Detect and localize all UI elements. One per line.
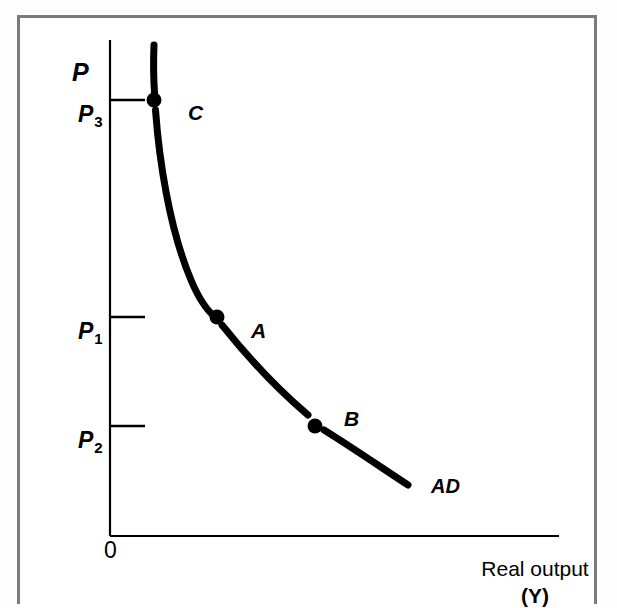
y-tick-label-p1-base: P (78, 318, 93, 344)
x-axis-title-line2: (Y) (460, 584, 610, 608)
y-tick-label-p2: P2 (78, 429, 102, 452)
ad-curve-segment-c-to-a (156, 110, 216, 317)
ad-curve-segment-top (154, 45, 155, 94)
y-tick-label-p1-sub: 1 (94, 330, 102, 347)
x-axis-title: Real output (Y) (460, 557, 610, 608)
data-point-b (308, 419, 323, 434)
data-point-label-a: A (251, 320, 266, 341)
data-point-a (210, 310, 225, 325)
chart-canvas (20, 18, 600, 607)
ad-curve-label: AD (431, 476, 460, 496)
origin-label: 0 (104, 539, 117, 562)
y-tick-label-p1: P1 (78, 320, 102, 343)
data-point-label-b: B (344, 408, 359, 429)
y-tick-label-p3: P3 (78, 103, 102, 126)
figure-frame: P P3 P1 P2 0 C A B AD Real output (Y) (17, 15, 597, 604)
y-tick-label-p3-sub: 3 (94, 113, 102, 130)
y-tick-label-p3-base: P (78, 101, 93, 127)
y-tick-label-p2-base: P (78, 427, 93, 453)
data-point-label-c: C (188, 102, 203, 123)
data-point-c (147, 93, 162, 108)
y-tick-label-p2-sub: 2 (94, 439, 102, 456)
ad-curve-segment-b-to-end (324, 430, 408, 485)
y-axis-title: P (72, 60, 89, 85)
x-axis-title-line1: Real output (460, 557, 610, 581)
